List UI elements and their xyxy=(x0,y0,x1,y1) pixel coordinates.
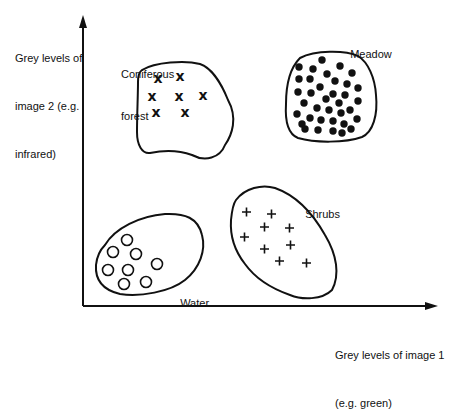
x-axis-label-line: Grey levels of image 1 xyxy=(335,347,444,363)
cluster-label-line: Coniferous xyxy=(121,67,174,81)
svg-text:x: x xyxy=(198,87,207,103)
cluster-label-line: Shrubs xyxy=(305,208,340,220)
label-water: Water xyxy=(174,282,209,310)
filled-circle-markers xyxy=(293,56,361,136)
x-axis-arrow-icon xyxy=(425,302,438,310)
cluster-label-line: Water xyxy=(180,297,209,309)
x-axis-label: Grey levels of image 1 (e.g. green) xyxy=(335,315,444,413)
y-axis-label-line: Grey levels of xyxy=(15,50,82,66)
x-axis-label-line: (e.g. green) xyxy=(335,395,444,411)
y-axis-label: Grey levels of image 2 (e.g. infrared) xyxy=(15,18,82,178)
open-circle-markers xyxy=(103,235,163,290)
y-axis-label-line: image 2 (e.g. xyxy=(15,98,82,114)
label-shrubs: Shrubs xyxy=(299,193,340,221)
label-meadow: Meadow xyxy=(344,33,392,61)
svg-text:x: x xyxy=(175,68,184,84)
cluster-label-line: forest xyxy=(121,109,174,123)
label-coniferous-forest: Coniferous forest xyxy=(121,39,174,137)
svg-text:x: x xyxy=(180,104,189,120)
svg-text:x: x xyxy=(174,88,183,104)
cluster-meadow xyxy=(286,52,377,142)
cluster-label-line: Meadow xyxy=(350,48,392,60)
y-axis-label-line: infrared) xyxy=(15,146,82,162)
